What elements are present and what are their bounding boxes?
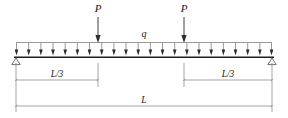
udl-arrow bbox=[124, 43, 128, 56]
udl-arrow bbox=[15, 43, 19, 56]
udl-arrow bbox=[136, 43, 140, 56]
distributed-load-arrows bbox=[15, 43, 274, 56]
dimension-left-third: L/3 bbox=[16, 69, 98, 80]
udl-arrow bbox=[149, 43, 153, 56]
udl-arrow bbox=[100, 43, 104, 56]
udl-arrow bbox=[76, 43, 80, 56]
point-load-2-arrowhead bbox=[181, 35, 186, 43]
point-load-2: P bbox=[180, 2, 188, 43]
distributed-load-label: q bbox=[142, 28, 147, 39]
udl-arrow bbox=[63, 43, 67, 56]
udl-arrow bbox=[39, 43, 43, 56]
udl-arrow bbox=[209, 43, 213, 56]
point-load-2-label: P bbox=[180, 2, 188, 14]
udl-arrow bbox=[88, 43, 92, 56]
dimension-total-span-label: L bbox=[140, 95, 146, 105]
udl-arrow bbox=[161, 43, 165, 56]
point-load-1-label: P bbox=[94, 2, 102, 14]
dimension-right-third: L/3 bbox=[184, 69, 272, 80]
udl-arrow bbox=[51, 43, 55, 56]
udl-arrow bbox=[27, 43, 31, 56]
beam-load-diagram: P P q bbox=[0, 0, 288, 118]
udl-arrow bbox=[222, 43, 226, 56]
point-load-1: P bbox=[94, 2, 102, 43]
udl-arrow bbox=[234, 43, 238, 56]
point-load-1-arrowhead bbox=[95, 35, 100, 43]
udl-arrow bbox=[185, 43, 189, 56]
udl-arrow bbox=[258, 43, 261, 56]
dimension-right-third-label: L/3 bbox=[221, 69, 235, 79]
udl-arrow bbox=[270, 43, 274, 56]
udl-arrow bbox=[112, 43, 116, 56]
distributed-load-q: q bbox=[15, 28, 274, 56]
dimension-total-span: L bbox=[16, 95, 272, 106]
udl-arrow bbox=[173, 43, 177, 56]
udl-arrow bbox=[246, 43, 250, 56]
dimension-left-third-label: L/3 bbox=[50, 69, 64, 79]
udl-arrow bbox=[197, 43, 201, 56]
